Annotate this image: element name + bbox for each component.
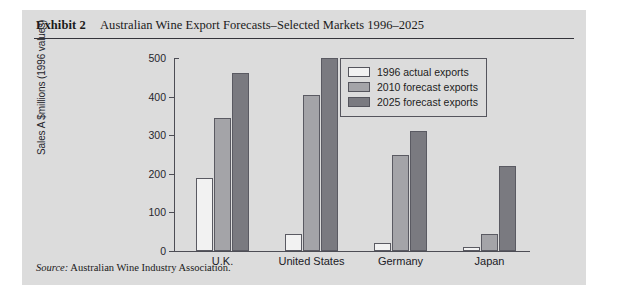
- legend-label: 1996 actual exports: [377, 66, 469, 78]
- bar: [285, 234, 302, 251]
- y-axis-line: [174, 58, 175, 252]
- exhibit-panel: Exhibit 2 Australian Wine Export Forecas…: [22, 10, 586, 285]
- bar: [232, 73, 249, 251]
- chart-legend: 1996 actual exports2010 forecast exports…: [340, 58, 487, 117]
- bar: [410, 131, 427, 251]
- legend-item: 2010 forecast exports: [348, 80, 478, 94]
- bar: [214, 118, 231, 251]
- x-axis-category-label: Germany: [378, 255, 423, 267]
- bar: [321, 58, 338, 251]
- source-note: Source: Australian Wine Industry Associa…: [36, 262, 231, 273]
- y-axis-tick-label: 200: [148, 168, 166, 180]
- legend-swatch: [348, 97, 370, 107]
- legend-item: 1996 actual exports: [348, 65, 478, 79]
- bar: [481, 234, 498, 251]
- y-axis-tick: [169, 251, 174, 252]
- y-axis-title: Sales A $millions (1996 values): [36, 20, 47, 155]
- y-axis-tick: [174, 58, 179, 59]
- y-axis-tick-label: 500: [148, 52, 166, 64]
- y-axis-tick: [169, 135, 174, 136]
- y-axis-tick: [169, 212, 174, 213]
- bar: [499, 166, 516, 251]
- legend-label: 2025 forecast exports: [377, 96, 478, 108]
- bar: [374, 243, 391, 251]
- x-axis-category-label: United States: [278, 255, 344, 267]
- bar: [463, 247, 480, 251]
- legend-label: 2010 forecast exports: [377, 81, 478, 93]
- source-text: Australian Wine Industry Association.: [70, 262, 230, 273]
- legend-swatch: [348, 67, 370, 77]
- y-axis-tick-label: 400: [148, 91, 166, 103]
- legend-item: 2025 forecast exports: [348, 95, 478, 109]
- y-axis-tick: [169, 97, 174, 98]
- source-label: Source:: [36, 262, 68, 273]
- y-axis-tick-label: 100: [148, 206, 166, 218]
- bar: [303, 95, 320, 251]
- y-axis-tick: [169, 174, 174, 175]
- legend-swatch: [348, 82, 370, 92]
- bar: [392, 155, 409, 252]
- y-axis-tick-label: 300: [148, 129, 166, 141]
- exhibit-title: Australian Wine Export Forecasts–Selecte…: [100, 18, 424, 33]
- bar-chart: Sales A $millions (1996 values) 01002003…: [22, 38, 586, 260]
- y-axis-tick-label: 0: [160, 245, 166, 257]
- x-axis-line: [174, 251, 530, 252]
- bar: [196, 178, 213, 251]
- x-axis-category-label: Japan: [475, 255, 505, 267]
